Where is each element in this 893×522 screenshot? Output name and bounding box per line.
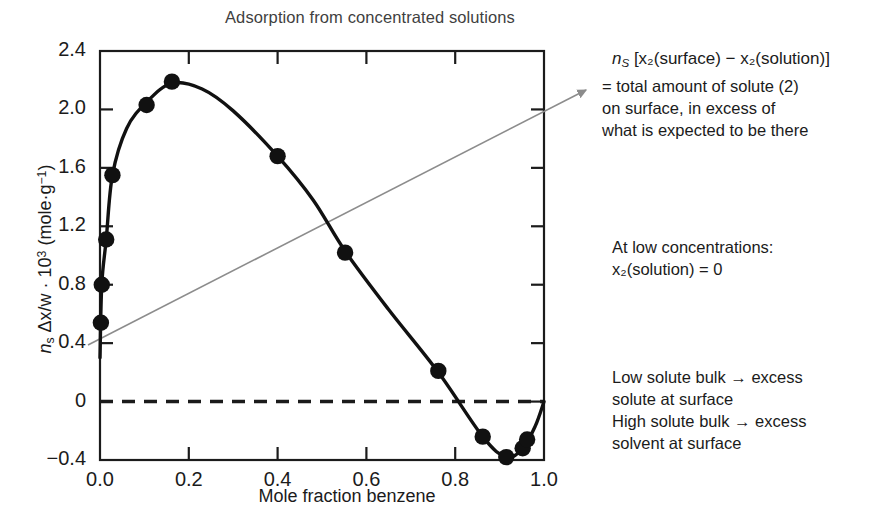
x-axis-tick-label: 0.0 [70, 468, 130, 491]
x-axis-tick-label: 0.6 [336, 468, 396, 491]
note-formula: nS [x₂(surface) − x₂(solution)] [612, 48, 830, 71]
x-axis-tick-label: 1.0 [514, 468, 574, 491]
data-point [164, 73, 180, 89]
note-definition: = total amount of solute (2) on surface,… [602, 76, 892, 142]
y-axis-tick-label: 1.2 [26, 213, 86, 236]
chart-figure: Adsorption from concentrated solutions M… [0, 0, 893, 522]
data-point [337, 244, 353, 260]
y-axis-tick-label: 1.6 [26, 155, 86, 178]
data-point [138, 97, 154, 113]
data-point [104, 167, 120, 183]
y-axis-label-mid: Δx/w · 10 [35, 257, 55, 337]
data-point [269, 148, 285, 164]
note-formula-rest: [x₂(surface) − x₂(solution)] [629, 49, 830, 68]
y-axis-tick-label: 2.4 [26, 38, 86, 61]
x-axis-tick-label: 0.4 [248, 468, 308, 491]
data-point [475, 428, 491, 444]
data-point [498, 449, 514, 465]
note-bulk-behaviour: Low solute bulk → excess solute at surfa… [612, 367, 893, 455]
x-axis-tick-label: 0.2 [159, 468, 219, 491]
data-point [519, 431, 535, 447]
y-axis-label-exp: 3 [35, 251, 49, 258]
note-low-concentration: At low concentrations:x₂(solution) = 0 [612, 237, 893, 281]
data-point [98, 231, 114, 247]
data-point [93, 314, 109, 330]
y-axis-tick-label: −0.4 [26, 447, 86, 470]
x-axis-tick-label: 0.8 [425, 468, 485, 491]
pointer-arrow-to-note [88, 90, 586, 345]
note-low-concentration-line1: At low concentrations: [612, 238, 773, 256]
note-low-concentration-line2: x₂(solution) = 0 [612, 260, 723, 278]
y-axis-tick-label: 2.0 [26, 96, 86, 119]
data-point [94, 277, 110, 293]
y-axis-tick-label: 0.8 [26, 272, 86, 295]
y-axis-tick-label: 0.4 [26, 330, 86, 353]
plot-frame [100, 51, 544, 460]
y-axis-tick-label: 0 [26, 389, 86, 412]
data-point [430, 363, 446, 379]
